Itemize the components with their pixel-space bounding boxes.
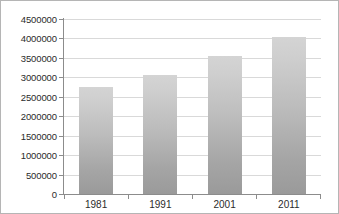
x-axis-tick-label: 1991 [149, 199, 171, 210]
x-axis-tick-label: 1981 [85, 199, 107, 210]
x-axis-tick-label: 2001 [214, 199, 236, 210]
x-tick [192, 194, 193, 199]
y-axis-tick-label: 4000000 [21, 33, 57, 44]
bar [143, 75, 177, 194]
x-tick [128, 194, 129, 199]
x-axis-tick-label: 2011 [278, 199, 300, 210]
bar [79, 87, 113, 194]
y-axis-tick-label: 4500000 [21, 14, 57, 25]
bar [272, 37, 306, 195]
x-tick [256, 194, 257, 199]
gridline [64, 19, 321, 20]
y-axis-tick-label: 1500000 [21, 131, 57, 142]
bar-chart: 4500000 4000000 3500000 3000000 2500000 … [0, 0, 339, 214]
plot-area [64, 19, 321, 194]
x-tick [64, 194, 65, 199]
y-axis-tick-label: 3000000 [21, 72, 57, 83]
x-tick [320, 194, 321, 199]
y-axis-tick-label: 1000000 [21, 150, 57, 161]
y-axis-tick-label: 2500000 [21, 92, 57, 103]
y-axis-tick-label: 0 [52, 189, 57, 200]
y-axis-tick-label: 3500000 [21, 53, 57, 64]
y-axis-tick-label: 500000 [26, 170, 57, 181]
y-axis-tick-label: 2000000 [21, 111, 57, 122]
bar [208, 56, 242, 194]
